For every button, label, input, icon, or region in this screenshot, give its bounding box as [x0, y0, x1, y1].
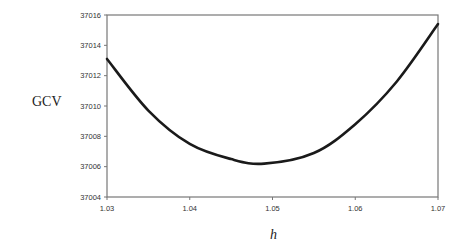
y-axis-label: GCV: [32, 94, 62, 109]
x-axis-ticks: 1.031.041.051.061.07: [100, 197, 446, 213]
y-tick-label: 37008: [80, 132, 101, 141]
plot-frame: [107, 15, 438, 197]
gcv-chart: 37004370063700837010370123701437016 1.03…: [0, 0, 465, 248]
gcv-curve: [107, 24, 438, 164]
x-tick-label: 1.07: [431, 204, 446, 213]
y-tick-label: 37010: [80, 102, 101, 111]
plot-border: [107, 15, 438, 197]
x-tick-label: 1.03: [100, 204, 115, 213]
y-tick-label: 37006: [80, 162, 101, 171]
y-tick-label: 37012: [80, 71, 101, 80]
y-tick-label: 37016: [80, 11, 101, 20]
x-tick-label: 1.05: [265, 204, 280, 213]
x-tick-label: 1.04: [182, 204, 197, 213]
y-axis-ticks: 37004370063700837010370123701437016: [80, 11, 107, 202]
x-tick-label: 1.06: [348, 204, 363, 213]
y-tick-label: 37004: [80, 193, 101, 202]
x-axis-label: h: [270, 227, 277, 242]
y-tick-label: 37014: [80, 41, 101, 50]
